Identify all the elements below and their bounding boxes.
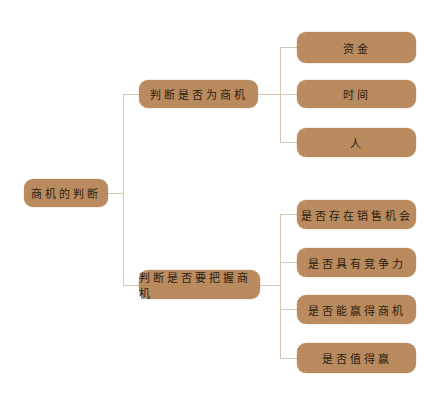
connector-group2-branch-1 — [280, 214, 297, 215]
node-worth-winning[interactable]: 是否值得赢 — [297, 343, 416, 373]
node-people[interactable]: 人 — [297, 128, 416, 157]
node-judge-opportunity[interactable]: 判断是否为商机 — [139, 80, 258, 108]
connector-level1-branch-1 — [123, 94, 139, 95]
node-time[interactable]: 时间 — [297, 80, 416, 108]
node-label: 资金 — [343, 40, 371, 56]
connector-group1-branch-1 — [280, 47, 297, 48]
connector-group2-h — [260, 285, 281, 286]
root-node[interactable]: 商机的判断 — [24, 179, 108, 207]
connector-group2-trunk — [280, 214, 281, 359]
node-sales-opportunity-exists[interactable]: 是否存在销售机会 — [297, 200, 416, 229]
node-label: 是否值得赢 — [322, 350, 392, 366]
connector-level1-trunk — [123, 94, 124, 286]
connector-group1-branch-2 — [280, 94, 297, 95]
connector-group2-branch-2 — [280, 262, 297, 263]
connector-group1-h — [258, 94, 281, 95]
node-label: 人 — [350, 135, 364, 151]
connector-root-h — [108, 193, 124, 194]
node-label: 是否能赢得商机 — [308, 302, 406, 318]
root-node-label: 商机的判断 — [31, 185, 101, 201]
connector-group1-branch-3 — [280, 142, 297, 143]
node-label: 时间 — [343, 86, 371, 102]
node-judge-seize-opportunity[interactable]: 判断是否要把握商机 — [139, 270, 260, 299]
node-label: 是否具有竞争力 — [308, 255, 406, 271]
node-can-win[interactable]: 是否能赢得商机 — [297, 295, 416, 324]
node-funds[interactable]: 资金 — [297, 32, 416, 63]
node-competitive[interactable]: 是否具有竞争力 — [297, 248, 416, 277]
node-label: 判断是否要把握商机 — [139, 269, 260, 301]
connector-group2-branch-3 — [280, 309, 297, 310]
connector-group2-branch-4 — [280, 358, 297, 359]
connector-group1-trunk — [280, 47, 281, 143]
mind-map-canvas: 商机的判断 判断是否为商机 判断是否要把握商机 资金 时间 人 是否存在销售机会… — [0, 0, 443, 402]
node-label: 是否存在销售机会 — [301, 207, 413, 223]
connector-level1-branch-2 — [123, 285, 139, 286]
node-label: 判断是否为商机 — [150, 86, 248, 102]
